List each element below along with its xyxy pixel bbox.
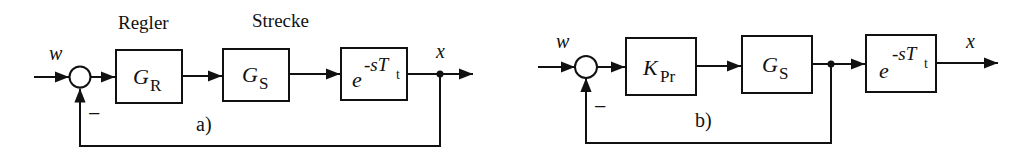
diagram-a: Regler Strecke w G R G S e -sT t x − a) [34, 10, 473, 146]
block-controller-gr [116, 50, 182, 103]
block-deadtime-base: e [879, 58, 889, 83]
block-gs-main: G [242, 62, 258, 87]
input-label-w: w [556, 30, 570, 52]
block-kpr-main: K [642, 55, 659, 80]
feedback-minus-sign: − [594, 94, 606, 119]
diagram-b: w K Pr G S e -sT t x − b) [538, 30, 998, 143]
summing-junction [70, 67, 91, 88]
block-deadtime-base: e [352, 67, 362, 92]
input-label-w: w [49, 42, 63, 64]
block-deadtime-exp: -sT [892, 43, 918, 64]
label-regler: Regler [118, 12, 169, 33]
block-gs-sub: S [259, 74, 268, 93]
block-kpr-sub: Pr [660, 67, 675, 86]
block-gr-main: G [133, 64, 149, 89]
feedback-minus-sign: − [88, 101, 100, 126]
label-strecke: Strecke [252, 10, 309, 31]
block-gr-sub: R [150, 76, 162, 95]
block-gs-sub: S [779, 64, 788, 83]
block-deadtime-exp-sub: t [924, 56, 928, 71]
output-label-x: x [435, 40, 445, 62]
control-diagrams: Regler Strecke w G R G S e -sT t x − a) … [0, 0, 1035, 157]
output-label-x: x [965, 30, 975, 52]
block-deadtime-exp-sub: t [396, 67, 400, 82]
caption-a: a) [196, 113, 212, 136]
summing-junction [575, 56, 597, 78]
caption-b: b) [695, 109, 712, 132]
block-gs-main: G [762, 52, 778, 77]
block-deadtime-exp: -sT [364, 54, 390, 75]
